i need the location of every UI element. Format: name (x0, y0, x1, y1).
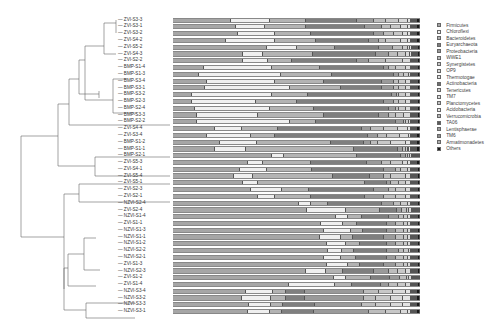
bar-segment (251, 134, 275, 137)
bar-segment (173, 86, 205, 89)
bar-segment (297, 46, 336, 49)
sample-label: — BMP-S1-1 (118, 146, 170, 153)
bar-segment (384, 174, 391, 177)
bar-segment (403, 303, 410, 306)
bar-segment (243, 52, 262, 55)
bar-segment (374, 269, 389, 272)
sample-label: — BMP-S3-3 (118, 112, 170, 119)
bar-segment (362, 127, 372, 130)
bar-segment (418, 283, 420, 286)
bar-segment (173, 249, 328, 252)
sample-label: — NZVI-S2-2 (118, 247, 170, 254)
stacked-bar (173, 248, 420, 253)
bar-segment (286, 296, 306, 299)
bar-segment (173, 269, 306, 272)
bar-segment (403, 59, 410, 62)
legend-label: Armatimonadetes (446, 140, 484, 145)
sample-label: — ZVI-S2-1 (118, 193, 170, 200)
bar-segment (173, 93, 192, 96)
bar-segment (346, 242, 360, 245)
bar-segment (417, 296, 420, 299)
bar-segment (396, 229, 403, 232)
bar-segment (400, 134, 410, 137)
bar-segment (378, 134, 388, 137)
sample-label: — NZVI-S2-1 (118, 254, 170, 261)
legend-label: TM6 (446, 133, 456, 138)
bar-segment (417, 32, 420, 35)
bar-segment (417, 19, 420, 22)
legend: FirmicutesChloroflexiBacteroidetesEuryar… (437, 22, 484, 152)
bar-segment (384, 168, 396, 171)
bar-segment (396, 263, 403, 266)
bar-segment (265, 25, 306, 28)
bar-segment (418, 263, 420, 266)
bar-segment (387, 256, 397, 259)
bar-segment (391, 161, 403, 164)
bar-segment (275, 80, 324, 83)
bar-segment (246, 290, 273, 293)
bar-segment (282, 188, 309, 191)
bar-segment (418, 242, 420, 245)
legend-swatch-icon (437, 36, 441, 40)
bar-segment (369, 39, 379, 42)
bar-segment (365, 181, 387, 184)
bar-segment (346, 208, 380, 211)
bar-segment (399, 100, 406, 103)
bar-segment (173, 174, 234, 177)
bar-segment (270, 107, 314, 110)
sample-label: — NZVI-S1-1 (118, 234, 170, 241)
bar-segment (343, 222, 358, 225)
legend-label: Tenericutes (446, 88, 471, 93)
bar-segment (382, 86, 394, 89)
bar-segment (311, 202, 328, 205)
bar-segment (417, 25, 420, 28)
legend-label: WWE1 (446, 55, 461, 60)
sample-label: — BMP-S2-4 (118, 105, 170, 112)
bar-segment (362, 303, 377, 306)
bar-segment (417, 161, 420, 164)
sample-label: — NZVI-S2-4 (118, 200, 170, 207)
bar-segment (418, 222, 420, 225)
bar-segment (418, 188, 420, 191)
bar-segment (195, 107, 270, 110)
bar-segment (354, 147, 398, 150)
legend-label: TA06 (446, 120, 457, 125)
bar-segment (364, 290, 379, 293)
bar-segment (173, 59, 243, 62)
bar-segment (215, 147, 247, 150)
stacked-bar (173, 194, 420, 199)
legend-swatch-icon (437, 114, 441, 118)
stacked-bar (173, 173, 420, 178)
stacked-bar (173, 140, 420, 145)
legend-swatch-icon (437, 95, 441, 99)
bar-segment (418, 181, 420, 184)
bar-segment (173, 202, 299, 205)
sample-label: — NZVI-S2-3 (118, 268, 170, 275)
bar-segment (273, 290, 285, 293)
bar-segment (394, 202, 401, 205)
stacked-bar (173, 85, 420, 90)
stacked-bar (173, 207, 420, 212)
bar-segment (370, 174, 385, 177)
bar-segment (341, 256, 355, 259)
bar-segment (389, 66, 396, 69)
bar-segment (173, 188, 251, 191)
bar-segment (379, 113, 389, 116)
sample-label: — ZVI-S4-4 (118, 125, 170, 132)
bar-segment (290, 120, 317, 123)
bar-segment (417, 290, 420, 293)
bar-segment (342, 249, 354, 252)
bar-segment (418, 120, 420, 123)
bar-segment (197, 120, 289, 123)
bar-segment (398, 52, 405, 55)
sample-label: — ZVI-S3-4 (118, 132, 170, 139)
bar-segment (378, 141, 390, 144)
bar-segment (226, 39, 275, 42)
legend-swatch-icon (437, 49, 441, 53)
bar-segment (240, 168, 266, 171)
bar-segment (384, 263, 396, 266)
bar-segment (243, 59, 267, 62)
bar-segment (386, 310, 401, 313)
legend-label: Others (446, 146, 460, 151)
stacked-bar (173, 268, 420, 273)
